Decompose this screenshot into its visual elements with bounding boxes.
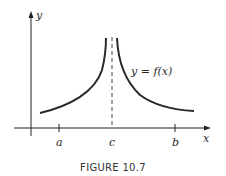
y-axis-arrow-icon xyxy=(29,11,34,18)
tick-label-b: b xyxy=(172,136,179,149)
curve-left-branch xyxy=(40,38,106,113)
curve-label: y = f(x) xyxy=(130,65,172,78)
y-axis-label: y xyxy=(35,9,43,22)
x-axis-arrow-icon xyxy=(204,126,211,131)
tick-label-a: a xyxy=(56,136,63,149)
x-axis-label: x xyxy=(203,132,210,145)
tick-label-c: c xyxy=(109,136,115,149)
figure-caption: FIGURE 10.7 xyxy=(80,162,146,173)
figure-plot: y x a c b y = f(x) FIGURE 10.7 xyxy=(0,0,226,176)
